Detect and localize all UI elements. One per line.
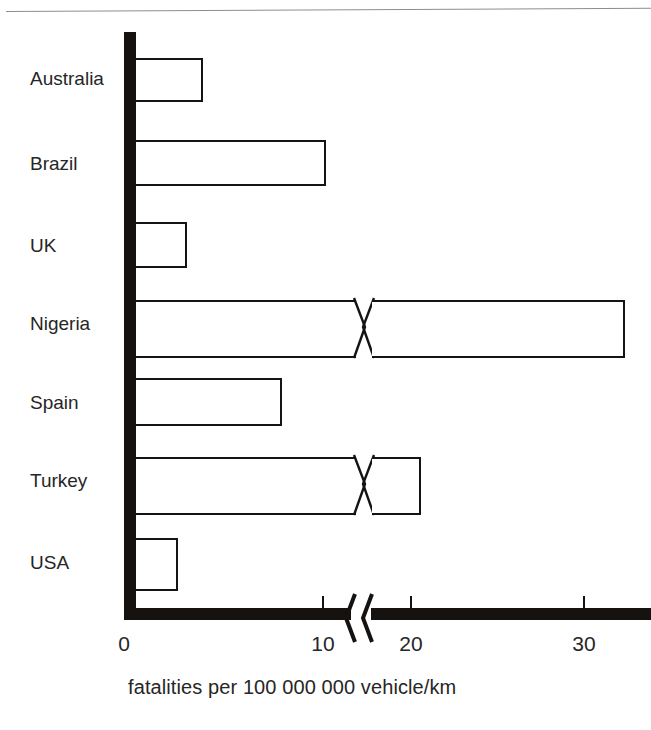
bar-chart-plot-area: Australia Brazil UK Nigeria Spain Turkey… bbox=[0, 0, 651, 730]
x-tick-label-0: 0 bbox=[94, 632, 154, 656]
x-tick-label-20: 20 bbox=[381, 632, 441, 656]
x-tick-mark-10 bbox=[322, 596, 324, 611]
bar-nigeria-segment-right bbox=[372, 300, 625, 358]
category-label-turkey: Turkey bbox=[0, 470, 120, 490]
bar-spain bbox=[131, 378, 282, 426]
category-label-text: Nigeria bbox=[30, 313, 90, 335]
x-tick-mark-20 bbox=[410, 596, 412, 611]
category-label-spain: Spain bbox=[0, 392, 120, 412]
bar-uk bbox=[131, 222, 187, 268]
category-label-uk: UK bbox=[0, 235, 120, 255]
x-tick-label-10: 10 bbox=[293, 632, 353, 656]
bar-turkey-segment-right bbox=[372, 457, 421, 515]
category-label-usa: USA bbox=[0, 552, 120, 572]
bar-nigeria-segment-left bbox=[131, 300, 356, 358]
category-label-nigeria: Nigeria bbox=[0, 313, 120, 333]
x-axis-spine bbox=[124, 608, 651, 620]
category-label-australia: Australia bbox=[0, 68, 120, 88]
bar-australia bbox=[131, 58, 203, 102]
category-label-text: Spain bbox=[30, 392, 79, 414]
category-label-text: Turkey bbox=[30, 470, 87, 492]
figure-root: Australia Brazil UK Nigeria Spain Turkey… bbox=[0, 0, 651, 730]
bar-usa bbox=[131, 538, 178, 591]
x-tick-mark-30 bbox=[583, 596, 585, 611]
bar-turkey-segment-left bbox=[131, 457, 356, 515]
x-tick-label-30: 30 bbox=[554, 632, 614, 656]
y-axis-spine bbox=[124, 32, 136, 620]
category-label-brazil: Brazil bbox=[0, 153, 120, 173]
bar-brazil bbox=[131, 140, 326, 186]
category-label-text: Australia bbox=[30, 68, 104, 90]
x-axis-title: fatalities per 100 000 000 vehicle/km bbox=[128, 676, 456, 699]
category-label-text: Brazil bbox=[30, 153, 78, 175]
category-label-text: USA bbox=[30, 552, 69, 574]
category-label-text: UK bbox=[30, 235, 56, 257]
